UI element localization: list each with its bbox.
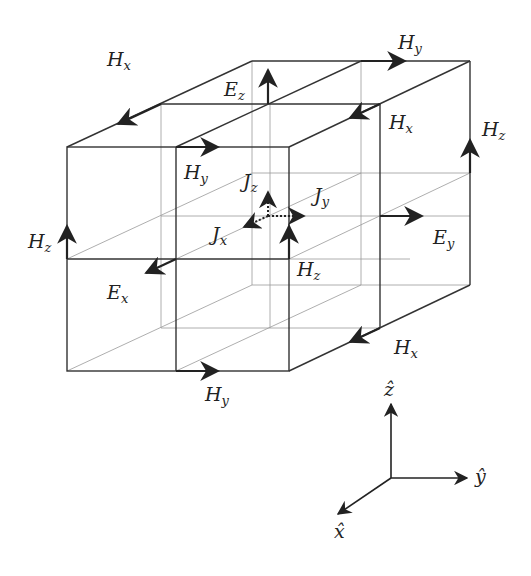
label-hy-bottom: Hy: [205, 385, 229, 407]
label-hz-right: Hz: [482, 120, 505, 142]
label-jy: Jy: [314, 186, 329, 208]
axis-label-x: x̂: [334, 522, 345, 541]
label-hy-top-right: Hy: [398, 33, 422, 55]
coordinate-axes: [338, 404, 467, 514]
yee-cell-diagram: Hx Ez Hy Hx Hz Hy Jz Jy Jx Hz Ey Hz Ex H…: [0, 0, 531, 576]
axis-label-z: ẑ: [384, 380, 394, 399]
label-hz-left: Hz: [28, 232, 51, 254]
label-ex: Ex: [107, 283, 128, 305]
label-jx: Jx: [212, 225, 227, 247]
label-ey: Ey: [433, 228, 454, 250]
label-hy-front: Hy: [184, 163, 208, 185]
axis-label-y: ŷ: [475, 467, 486, 486]
label-hz-center: Hz: [297, 260, 320, 282]
label-hx-top-left: Hx: [107, 50, 131, 72]
label-ez: Ez: [224, 80, 245, 102]
label-hx-right-upper: Hx: [389, 113, 413, 135]
cube-drawing: [0, 0, 531, 576]
current-arrows: [244, 192, 304, 227]
label-hx-bottom-right: Hx: [394, 338, 418, 360]
label-jz: Jz: [243, 172, 257, 194]
